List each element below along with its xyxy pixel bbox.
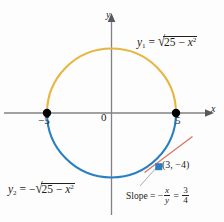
x-axis-label: x <box>211 104 215 114</box>
slope-label-fraction-xy: xy <box>164 186 170 206</box>
y-axis-label: y <box>106 10 110 20</box>
curve-label-upper-subscript: 1 <box>142 42 146 50</box>
slope-label-equals-1: = <box>150 191 155 201</box>
curve-label-lower-subscript: 2 <box>13 189 17 197</box>
curve-label-upper: y1 = √25 − x2 <box>137 36 197 50</box>
slope-label-fraction-value-numerator: 3 <box>182 186 189 195</box>
x-axis-tick-label-positive-five: 5 <box>175 115 181 126</box>
curve-label-lower-radicand-exponent: 2 <box>70 183 74 191</box>
slope-label-word: Slope <box>126 191 148 201</box>
point-label-tangency: (3, −4) <box>162 160 189 170</box>
curve-label-lower-radicand: 25 − x2 <box>41 183 75 196</box>
origin-label: 0 <box>101 112 107 123</box>
curve-label-upper-radicand: 25 − x2 <box>163 36 197 49</box>
y-axis <box>108 13 116 215</box>
x-axis-tick-label-negative-five: −5 <box>38 115 50 126</box>
radical-icon: √ <box>35 181 42 196</box>
curve-label-lower-radicand-lead: 25 − <box>42 183 66 195</box>
slope-label-equals-2: = <box>174 191 179 201</box>
slope-label-minus: − <box>158 191 163 201</box>
slope-label-fraction-xy-numerator: x <box>164 186 170 195</box>
curve-label-lower: y2 = −√25 − x2 <box>8 183 75 197</box>
slope-label-fraction-value-denominator: 4 <box>182 195 189 205</box>
slope-label-fraction-xy-denominator: y <box>164 195 170 205</box>
curve-label-lower-equals: = <box>20 183 27 195</box>
curve-label-upper-equals: = <box>149 36 156 48</box>
circle-tangent-figure: y1 = √25 − x2 y2 = −√25 − x2 (3, −4) Slo… <box>0 0 224 222</box>
slope-label: Slope = −xy = 34 <box>126 186 190 206</box>
x-axis <box>4 109 214 117</box>
radical-icon: √ <box>158 34 165 49</box>
curve-label-upper-radicand-exponent: 2 <box>193 36 197 44</box>
curve-label-upper-radicand-lead: 25 − <box>164 36 188 48</box>
slope-label-fraction-value: 34 <box>182 186 189 206</box>
